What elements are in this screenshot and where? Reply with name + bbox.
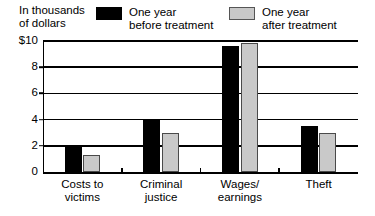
x-axis-category-label-line: Theft — [269, 178, 369, 191]
bar-after-treatment — [162, 133, 179, 172]
bar-before-treatment — [301, 126, 318, 172]
legend-label-before-line1: One year — [129, 6, 176, 18]
bar-after-treatment — [241, 43, 258, 172]
y-axis-tick-label: 4 — [32, 114, 38, 126]
y-axis-tick-label: 0 — [32, 166, 38, 178]
legend-label-before-treatment: One year before treatment — [129, 6, 213, 32]
x-axis-tick-mark — [200, 168, 202, 172]
legend-label-after-line1: One year — [262, 6, 309, 18]
y-axis-tick-label: 2 — [32, 140, 38, 152]
bar-chart: In thousands of dollars One year before … — [0, 0, 375, 216]
bar-before-treatment — [65, 146, 82, 172]
y-axis-tick-label: 8 — [32, 61, 38, 73]
bar-before-treatment — [222, 46, 239, 172]
x-axis-tick-mark — [121, 168, 123, 172]
bar-before-treatment — [143, 120, 160, 172]
y-axis-tick-label: 6 — [32, 88, 38, 100]
x-axis-category-label-line: earnings — [190, 191, 290, 204]
legend-swatch-gray-icon — [229, 7, 255, 20]
legend-label-after-line2: after treatment — [262, 19, 337, 31]
x-axis-category-label: Theft — [269, 178, 369, 191]
legend-item-before-treatment: One year before treatment — [96, 6, 213, 32]
legend-swatch-black-icon — [96, 7, 122, 20]
bar-after-treatment — [319, 133, 336, 172]
y-axis-tick-label: $10 — [19, 35, 38, 47]
plot-area: 02468$10 — [43, 41, 358, 172]
bars-layer — [43, 41, 358, 172]
x-axis-tick-mark — [278, 168, 280, 172]
legend-label-after-treatment: One year after treatment — [262, 6, 337, 32]
legend-item-after-treatment: One year after treatment — [229, 6, 337, 32]
bar-after-treatment — [83, 155, 100, 172]
legend-label-before-line2: before treatment — [129, 19, 213, 31]
